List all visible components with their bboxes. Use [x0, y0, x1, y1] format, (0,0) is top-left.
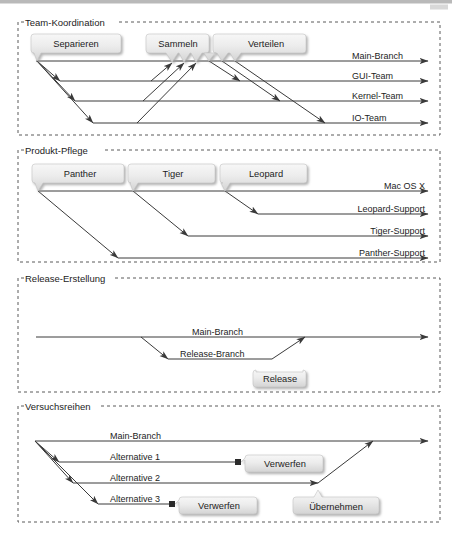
- panel-title: Versuchsreihen: [25, 401, 90, 412]
- branch-label-main: Main-Branch: [352, 51, 403, 61]
- branch-label-gui: GUI-Team: [352, 71, 393, 81]
- panel-team-koordination: Team-Koordination Main-Branch GUI-Team K…: [18, 17, 440, 136]
- branch-off-tiger: [133, 191, 188, 236]
- callout-label-panther: Panther: [64, 169, 97, 179]
- panel-title: Release-Erstellung: [25, 273, 105, 284]
- split-main-to-release: [141, 337, 168, 359]
- merge-gui-to-main: [151, 63, 172, 81]
- branch-label-macosx: Mac OS X: [384, 181, 425, 191]
- split-main-to-alt3: [35, 441, 98, 504]
- branch-label-kernel: Kernel-Team: [352, 91, 403, 101]
- distribute-main-to-io: [235, 61, 325, 123]
- branch-label-alt1: Alternative 1: [110, 452, 160, 462]
- panel-release-erstellung: Release-Erstellung Main-Branch Release-B…: [18, 273, 440, 393]
- branch-label-tiger-support: Tiger-Support: [370, 226, 425, 236]
- merge-alt2-to-main: [318, 441, 373, 483]
- split-main-to-io: [37, 61, 93, 123]
- diagram-canvas: Team-Koordination Main-Branch GUI-Team K…: [0, 0, 452, 534]
- callout-label-uebernehmen: Übernehmen: [309, 502, 363, 512]
- branch-label-io: IO-Team: [352, 113, 387, 123]
- branch-label-panther-support: Panther-Support: [359, 248, 426, 258]
- merge-release-to-main: [272, 337, 305, 359]
- callout-label-verwerfen-alt3: Verwerfen: [198, 501, 240, 511]
- panel-title: Team-Koordination: [25, 17, 105, 28]
- branch-label-main: Main-Branch: [110, 431, 161, 441]
- distribute-main-to-gui: [209, 61, 240, 81]
- branch-label-alt3: Alternative 3: [110, 494, 160, 504]
- callout-label-release: Release: [263, 374, 297, 384]
- branching-strategies-diagram: Team-Koordination Main-Branch GUI-Team K…: [0, 0, 452, 534]
- panel-versuchsreihen: Versuchsreihen Main-Branch Alternative 1…: [18, 401, 440, 523]
- branch-label-release: Release-Branch: [180, 349, 245, 359]
- branch-label-main: Main-Branch: [192, 327, 243, 337]
- callout-label-sammeln: Sammeln: [158, 39, 197, 49]
- branch-off-panther: [38, 191, 118, 258]
- panel-produkt-pflege: Produkt-Pflege Mac OS X Leopard-Support …: [18, 145, 440, 263]
- terminator-alt1: [235, 459, 241, 465]
- terminator-alt3: [169, 501, 175, 507]
- callout-label-verteilen: Verteilen: [248, 39, 284, 49]
- callout-label-leopard: Leopard: [249, 169, 283, 179]
- top-corner-mark: [430, 5, 448, 10]
- callout-label-tiger: Tiger: [163, 169, 184, 179]
- panel-title: Produkt-Pflege: [25, 145, 88, 156]
- branch-off-leopard: [225, 191, 258, 214]
- callout-label-separieren: Separieren: [53, 39, 98, 49]
- top-border-rule: [0, 0, 452, 4]
- branch-label-leopard-support: Leopard-Support: [357, 204, 425, 214]
- callout-label-verwerfen-alt1: Verwerfen: [264, 459, 306, 469]
- merge-io-to-main: [137, 63, 196, 123]
- branch-label-alt2: Alternative 2: [110, 473, 160, 483]
